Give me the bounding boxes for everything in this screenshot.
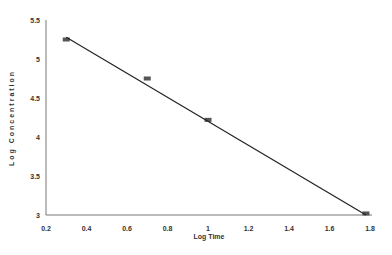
x-tick-label: 1.8	[365, 225, 375, 232]
y-tick-labels: 33.544.555.5	[30, 17, 40, 219]
x-tick-label: 1.2	[244, 225, 254, 232]
x-axis-label: Log Time	[194, 233, 225, 241]
x-tick-label: 1.6	[325, 225, 335, 232]
y-tick-label: 5	[36, 56, 40, 63]
x-tick-label: 0.8	[163, 225, 173, 232]
chart: 33.544.555.5 0.20.40.60.811.21.41.61.8 L…	[0, 0, 392, 255]
data-point	[144, 77, 151, 81]
y-tick-label: 4.5	[30, 95, 40, 102]
y-axis-label: Log Concentration	[8, 70, 16, 166]
y-tick-label: 5.5	[30, 17, 40, 24]
x-tick-label: 0.2	[41, 225, 51, 232]
chart-svg: 33.544.555.5 0.20.40.60.811.21.41.61.8 L…	[0, 0, 392, 255]
x-tick-label: 0.6	[122, 225, 132, 232]
x-tick-labels: 0.20.40.60.811.21.41.61.8	[41, 225, 375, 232]
y-tick-label: 3.5	[30, 173, 40, 180]
x-tick-label: 1.4	[284, 225, 294, 232]
y-tick-label: 3	[36, 212, 40, 219]
x-tick-label: 1	[206, 225, 210, 232]
plot-area	[63, 37, 370, 215]
trend-line	[66, 37, 366, 215]
x-tick-label: 0.4	[82, 225, 92, 232]
y-tick-label: 4	[36, 134, 40, 141]
